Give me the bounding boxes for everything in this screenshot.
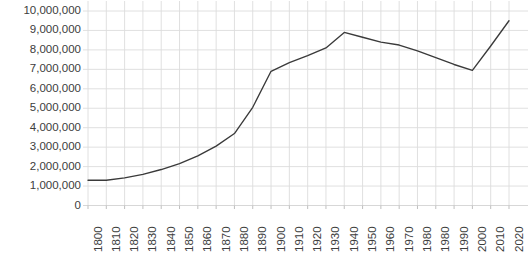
x-gridlines	[88, 1, 509, 206]
x-axis-tick-label: 1980	[422, 226, 434, 252]
x-axis-tick-label: 1990	[459, 226, 471, 252]
x-axis-tick-label: 2020	[514, 226, 526, 252]
y-axis-tick-label: 8,000,000	[30, 44, 81, 56]
x-axis-tick-label: 1900	[276, 226, 288, 252]
x-axis-tick-label: 2000	[477, 226, 489, 252]
population-line-chart: 10,000,0009,000,0008,000,0007,000,0006,0…	[0, 0, 530, 259]
x-axis-tick-label: 1800	[93, 226, 105, 252]
y-axis-tick-label: 6,000,000	[30, 83, 81, 95]
x-axis-tick-label: 1840	[166, 226, 178, 252]
y-axis-tick-label: 1,000,000	[30, 180, 81, 192]
x-axis-tick-label: 1860	[202, 226, 214, 252]
x-axis-tick-label: 1910	[294, 226, 306, 252]
x-axis-tick-label: 1850	[184, 226, 196, 252]
x-tick-marks	[88, 206, 509, 210]
x-axis-tick-label: 1980	[440, 226, 452, 252]
x-axis-tick-label: 1810	[111, 226, 123, 252]
y-gridlines	[83, 11, 528, 206]
x-axis-tick-label: 1960	[385, 226, 397, 252]
x-axis-tick-label: 1920	[312, 226, 324, 252]
data-series-line	[88, 21, 509, 180]
y-axis-tick-label: 9,000,000	[30, 24, 81, 36]
x-axis-tick-label: 2010	[495, 226, 507, 252]
y-axis-tick-label: 4,000,000	[30, 122, 81, 134]
y-axis-tick-label: 7,000,000	[30, 63, 81, 75]
y-axis-tick-label: 3,000,000	[30, 141, 81, 153]
x-axis-tick-label: 1880	[239, 226, 251, 252]
y-axis-tick-label: 10,000,000	[23, 5, 81, 17]
x-axis-tick-label: 1890	[257, 226, 269, 252]
y-axis-tick-label: 0	[75, 200, 81, 212]
x-axis-tick-label: 1950	[367, 226, 379, 252]
y-axis-tick-label: 5,000,000	[30, 102, 81, 114]
x-axis-tick-label: 1940	[349, 226, 361, 252]
y-axis-tick-label: 2,000,000	[30, 161, 81, 173]
x-axis-tick-label: 1830	[147, 226, 159, 252]
x-axis-tick-label: 1930	[330, 226, 342, 252]
x-axis-tick-label: 1870	[221, 226, 233, 252]
x-axis-tick-label: 1820	[129, 226, 141, 252]
x-axis-tick-label: 1970	[404, 226, 416, 252]
